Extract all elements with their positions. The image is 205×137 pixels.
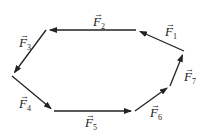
force-polygon-diagram: →F1 →F2 →F3 →F4 →F5 →F6 →F7 [0, 0, 205, 137]
vector-arrow-icon: → [185, 65, 194, 74]
vector-arrow-icon: → [166, 20, 175, 29]
label-f2: →F2 [93, 15, 105, 31]
vector-arrow-icon: → [86, 111, 95, 120]
vector-f7 [170, 55, 183, 86]
label-f5: →F5 [85, 116, 97, 132]
label-sub: 7 [192, 77, 196, 86]
vector-arrow-icon: → [20, 31, 29, 40]
label-f3: →F3 [19, 36, 31, 52]
label-sub: 1 [173, 32, 177, 41]
vector-f4 [12, 76, 51, 109]
label-f6: →F6 [150, 106, 162, 122]
label-sub: 5 [93, 123, 97, 132]
vector-f1 [140, 32, 184, 52]
vector-arrow-icon: → [20, 92, 29, 101]
label-f7: →F7 [184, 70, 196, 86]
label-f4: →F4 [19, 97, 31, 113]
label-sub: 4 [27, 104, 31, 113]
label-sub: 3 [27, 43, 31, 52]
vector-arrow-icon: → [94, 10, 103, 19]
label-f1: →F1 [165, 25, 177, 41]
vector-arrow-icon: → [151, 101, 160, 110]
label-sub: 6 [158, 113, 162, 122]
label-sub: 2 [101, 22, 105, 31]
